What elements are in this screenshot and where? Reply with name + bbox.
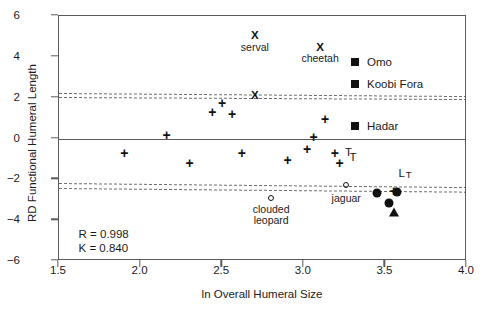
point-label: cheetah (301, 53, 338, 65)
annotation-l: LT (398, 167, 411, 180)
legend-label: T (345, 146, 352, 158)
data-point-plus: + (228, 107, 236, 121)
data-point-plus: + (321, 112, 329, 126)
legend-square-marker (351, 80, 359, 88)
confidence-band-upper-inner (59, 97, 465, 100)
data-point-open-circle (343, 182, 349, 188)
y-tick-label: 6 (0, 9, 20, 21)
data-point-open-circle (268, 195, 274, 201)
x-tick-mark (57, 260, 58, 267)
plot-frame: ++++++++++++++XXX servalcheetahcloudedle… (58, 15, 466, 260)
data-point-x: X (251, 90, 259, 102)
legend-square-marker (351, 58, 359, 66)
data-point-plus: + (120, 146, 128, 160)
y-tick-label: 0 (0, 132, 20, 144)
y-tick-label: −6 (0, 254, 20, 266)
chart-root: RD Functional Humeral Length 6420−2−4−6 … (0, 0, 486, 322)
point-label: serval (241, 42, 269, 54)
confidence-band-upper-outer (59, 93, 465, 97)
y-tick-label: 4 (0, 50, 20, 62)
point-label: cloudedleopard (253, 204, 290, 227)
legend-item-t: T (345, 146, 352, 158)
plot-area: ++++++++++++++XXX servalcheetahcloudedle… (59, 16, 465, 259)
point-label: jaguar (332, 193, 361, 205)
y-tick-mark (51, 96, 58, 97)
x-axis-title: ln Overall Humeral Size (58, 288, 466, 300)
y-tick-mark (51, 137, 58, 138)
data-point-plus: + (336, 156, 344, 170)
legend-label: Hadar (367, 120, 398, 132)
data-point-triangle (389, 208, 399, 217)
legend-square-marker (351, 122, 359, 130)
x-tick-mark (384, 260, 385, 267)
legend-item-omo: Omo (351, 56, 392, 68)
confidence-band-lower-inner (59, 188, 465, 193)
y-tick-mark (51, 218, 58, 219)
y-tick-mark (51, 55, 58, 56)
data-point-filled-circle (373, 188, 382, 197)
data-point-filled-circle (392, 187, 401, 196)
stats-box: R = 0.998K = 0.840 (79, 227, 129, 255)
stats-r-value: R = 0.998 (79, 227, 129, 241)
data-point-plus: + (218, 96, 226, 110)
x-tick-mark (139, 260, 140, 267)
y-tick-mark (51, 14, 58, 15)
x-tick-mark (220, 260, 221, 267)
data-point-plus: + (208, 105, 216, 119)
y-axis-title: RD Functional Humeral Length (26, 33, 38, 253)
y-tick-label: −2 (0, 172, 20, 184)
x-tick-mark (465, 260, 466, 267)
annotation-subscript: T (405, 169, 412, 180)
data-point-plus: + (283, 153, 291, 167)
legend-label: Omo (367, 56, 392, 68)
y-tick-mark (51, 178, 58, 179)
y-tick-label: −4 (0, 213, 20, 225)
legend-item-hadar: Hadar (351, 120, 398, 132)
y-tick-label: 2 (0, 91, 20, 103)
data-point-plus: + (238, 146, 246, 160)
regression-line-segment (59, 139, 465, 140)
x-tick-mark (302, 260, 303, 267)
data-point-filled-circle (384, 198, 393, 207)
data-point-plus: + (185, 156, 193, 170)
legend-label: Koobi Fora (367, 78, 423, 90)
data-point-plus: + (309, 130, 317, 144)
legend-item-koobi-fora: Koobi Fora (351, 78, 423, 90)
data-point-plus: + (163, 128, 171, 142)
stats-k-value: K = 0.840 (79, 241, 129, 255)
